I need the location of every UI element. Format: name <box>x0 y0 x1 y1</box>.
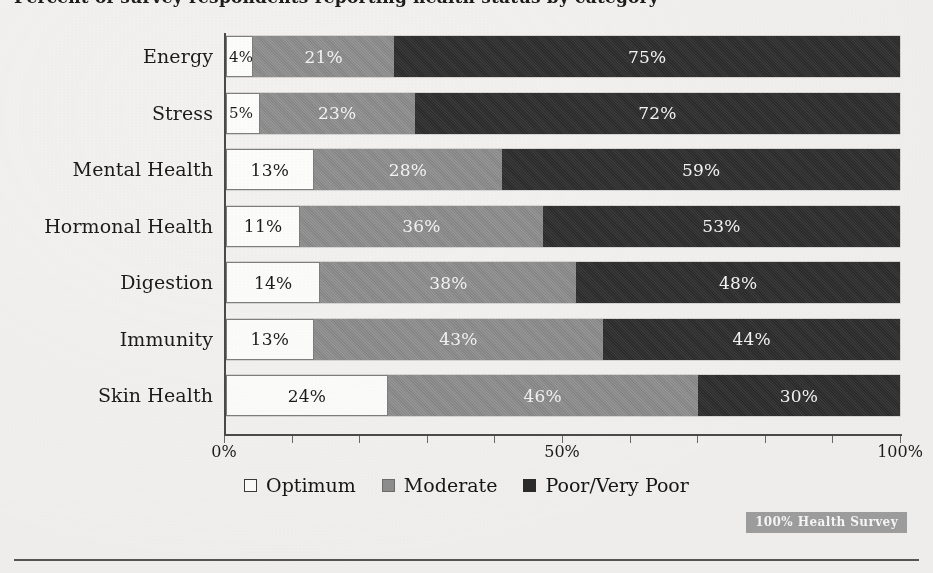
bar-row: Immunity13%43%44% <box>0 316 933 362</box>
legend-item-optimum[interactable]: Optimum <box>244 474 356 496</box>
page-title: Percent of survey respondents reporting … <box>14 0 774 8</box>
bar-row: Stress5%23%72% <box>0 90 933 136</box>
bar-segment-moderate: 28% <box>314 149 503 190</box>
bar-row: Mental Health13%28%59% <box>0 146 933 192</box>
x-tick <box>832 436 833 443</box>
legend-label: Moderate <box>404 474 498 496</box>
category-label-skin-health: Skin Health <box>0 372 213 418</box>
x-tick <box>562 436 563 443</box>
legend-swatch-optimum-icon <box>244 479 257 492</box>
stacked-bar: 24%46%30% <box>226 375 900 416</box>
category-label-hormonal-health: Hormonal Health <box>0 203 213 249</box>
bar-row: Energy4%21%75% <box>0 33 933 79</box>
stacked-bar: 13%43%44% <box>226 319 900 360</box>
chart-container: Percent of survey respondents reporting … <box>0 0 933 573</box>
x-tick-label: 100% <box>877 442 923 461</box>
legend-swatch-poor-icon <box>523 479 536 492</box>
bar-segment-poor: 53% <box>543 206 900 247</box>
stacked-bar: 11%36%53% <box>226 206 900 247</box>
x-tick-label: 50% <box>544 442 580 461</box>
bar-segment-poor: 59% <box>502 149 900 190</box>
bar-segment-moderate: 36% <box>300 206 543 247</box>
bar-segment-poor: 44% <box>603 319 900 360</box>
legend-swatch-moderate-icon <box>382 479 395 492</box>
bar-row: Hormonal Health11%36%53% <box>0 203 933 249</box>
chart-legend: OptimumModeratePoor/Very Poor <box>0 470 933 500</box>
x-tick <box>630 436 631 443</box>
bar-segment-optimum: 5% <box>226 93 260 134</box>
bar-segment-moderate: 43% <box>314 319 604 360</box>
category-label-digestion: Digestion <box>0 259 213 305</box>
bar-segment-moderate: 23% <box>260 93 415 134</box>
category-label-energy: Energy <box>0 33 213 79</box>
category-label-stress: Stress <box>0 90 213 136</box>
x-tick <box>292 436 293 443</box>
bar-rows: Energy4%21%75%Stress5%23%72%Mental Healt… <box>0 33 933 431</box>
x-tick <box>765 436 766 443</box>
bar-segment-poor: 30% <box>698 375 900 416</box>
bar-segment-poor: 48% <box>576 262 900 303</box>
category-label-immunity: Immunity <box>0 316 213 362</box>
bar-segment-moderate: 46% <box>388 375 698 416</box>
stacked-bar: 14%38%48% <box>226 262 900 303</box>
bar-row: Digestion14%38%48% <box>0 259 933 305</box>
bar-segment-poor: 75% <box>394 36 900 77</box>
stacked-bar: 5%23%72% <box>226 93 900 134</box>
bar-segment-optimum: 14% <box>226 262 320 303</box>
y-axis-line <box>224 33 226 435</box>
bottom-divider <box>14 559 919 561</box>
x-axis-ticks <box>224 436 900 444</box>
legend-label: Poor/Very Poor <box>545 474 688 496</box>
bar-segment-poor: 72% <box>415 93 900 134</box>
legend-item-moderate[interactable]: Moderate <box>382 474 498 496</box>
x-axis-tick-labels: 0%50%100% <box>0 442 933 466</box>
x-tick <box>359 436 360 443</box>
watermark-badge: 100% Health Survey <box>746 512 907 533</box>
bar-segment-optimum: 11% <box>226 206 300 247</box>
legend-item-poor[interactable]: Poor/Very Poor <box>523 474 688 496</box>
bar-segment-optimum: 24% <box>226 375 388 416</box>
x-tick <box>224 436 225 443</box>
legend-label: Optimum <box>266 474 356 496</box>
x-tick <box>494 436 495 443</box>
x-tick <box>697 436 698 443</box>
category-label-mental-health: Mental Health <box>0 146 213 192</box>
clipped-title: Percent of survey respondents reporting … <box>14 0 774 8</box>
bar-segment-optimum: 13% <box>226 319 314 360</box>
bar-segment-optimum: 13% <box>226 149 314 190</box>
stacked-bar: 13%28%59% <box>226 149 900 190</box>
bar-segment-optimum: 4% <box>226 36 253 77</box>
x-tick <box>900 436 901 443</box>
bar-segment-moderate: 21% <box>253 36 395 77</box>
x-tick-label: 0% <box>211 442 236 461</box>
bar-row: Skin Health24%46%30% <box>0 372 933 418</box>
bar-segment-moderate: 38% <box>320 262 576 303</box>
stacked-bar: 4%21%75% <box>226 36 900 77</box>
x-tick <box>427 436 428 443</box>
